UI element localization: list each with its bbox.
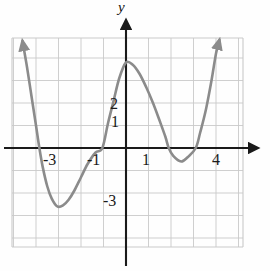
x-tick-label-minus-1: -1 [87,152,100,168]
x-tick-label-1: 1 [142,152,150,168]
y-axis-label: y [118,0,125,15]
y-tick-label-2: 2 [110,96,118,112]
function-curve [23,40,220,207]
y-tick-label-minus-3: -3 [103,193,116,209]
grid-lines [12,38,243,247]
coordinate-plane-svg [0,0,270,271]
graph-figure: y -3 -1 1 4 2 1 -3 [0,0,270,271]
x-tick-label-4: 4 [212,152,220,168]
y-tick-label-1: 1 [111,114,119,130]
x-tick-label-minus-3: -3 [43,152,56,168]
